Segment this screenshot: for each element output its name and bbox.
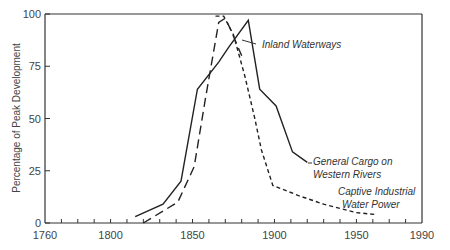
label-captive-power-2: Water Power	[342, 199, 400, 210]
x-tick-label: 1800	[98, 229, 122, 241]
y-axis-title: Percentage of Peak Development	[11, 43, 22, 193]
label-general-cargo-1: General Cargo on	[313, 156, 393, 167]
y-tick-label: 75	[29, 60, 41, 72]
line-chart: 1760180018501900195019900255075100 Perce…	[0, 0, 450, 250]
y-tick-label: 25	[29, 165, 41, 177]
y-tick-label: 0	[35, 217, 41, 229]
inland-leader-line	[242, 40, 256, 44]
x-tick-label: 1900	[262, 229, 286, 241]
label-captive-power-1: Captive Industrial	[338, 186, 416, 197]
x-tick-label: 1950	[344, 229, 368, 241]
label-general-cargo-2: Western Rivers	[313, 169, 381, 180]
x-tick-label: 1850	[180, 229, 204, 241]
x-tick-label: 1760	[33, 229, 57, 241]
y-tick-label: 50	[29, 113, 41, 125]
label-inland-waterways: Inland Waterways	[262, 39, 341, 50]
x-tick-label: 1990	[410, 229, 434, 241]
y-tick-label: 100	[23, 8, 41, 20]
